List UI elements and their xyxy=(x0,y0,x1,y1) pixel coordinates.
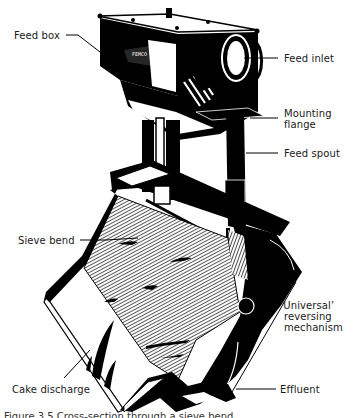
label-cake-discharge: Cake discharge xyxy=(12,384,90,395)
sieve-bend-screen xyxy=(84,196,240,380)
label-reversing-line1: ‘Universal’ xyxy=(280,300,334,311)
label-effluent: Effluent xyxy=(280,384,320,395)
label-sieve-bend: Sieve bend xyxy=(18,235,75,246)
label-reversing-line3: mechanism xyxy=(284,322,343,333)
label-mounting-flange-line2: flange xyxy=(284,119,316,130)
svg-text:FEMCO: FEMCO xyxy=(132,51,147,57)
label-feed-box: Feed box xyxy=(14,30,60,41)
figure-caption: Figure 3.5 Cross-section through a sieve… xyxy=(4,411,233,418)
label-reversing-line2: reversing xyxy=(284,311,332,322)
label-feed-spout: Feed spout xyxy=(284,148,340,159)
diagram-figure: FEMCO xyxy=(0,0,358,418)
label-feed-inlet: Feed inlet xyxy=(284,53,334,64)
label-mounting-flange-line1: Mounting xyxy=(284,108,332,119)
